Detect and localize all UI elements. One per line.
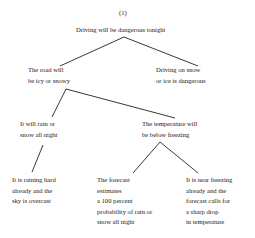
edge-rain-snow-to-raining-hard bbox=[32, 145, 43, 172]
node-line: be below freezing bbox=[142, 130, 197, 141]
node-line: It is near freezing bbox=[186, 175, 232, 186]
node-forecast: The forecast estimates a 100 percent pro… bbox=[97, 175, 152, 228]
node-line: be icy or snowy bbox=[28, 76, 70, 87]
node-line: already and the bbox=[186, 186, 232, 197]
node-line: already and the bbox=[12, 186, 56, 197]
node-line: It is raining hard bbox=[12, 175, 56, 186]
node-driving-on-snow: Driving on snow or ice is dangerous bbox=[156, 65, 206, 86]
node-road-icy: The road will be icy or snowy bbox=[28, 65, 70, 86]
edge-road-icy-to-temperature bbox=[66, 89, 175, 118]
edge-root-to-driving-on-snow bbox=[124, 37, 198, 66]
node-line: Driving will be dangerous tonight bbox=[76, 25, 165, 36]
node-line: estimates bbox=[97, 186, 152, 197]
node-line: The forecast bbox=[97, 175, 152, 186]
node-raining-hard: It is raining hard already and the sky i… bbox=[12, 175, 56, 207]
node-line: sky is overcast bbox=[12, 196, 56, 207]
node-temperature: The temperature will be below freezing bbox=[142, 119, 197, 140]
node-line: snow all night bbox=[97, 217, 152, 228]
node-root: Driving will be dangerous tonight bbox=[76, 25, 165, 36]
edge-temperature-to-near-freezing bbox=[160, 142, 198, 173]
node-rain-snow: It will rain or snow all night bbox=[20, 119, 57, 140]
node-line: It will rain or bbox=[20, 119, 57, 130]
node-line: probability of rain or bbox=[97, 207, 152, 218]
node-line: Driving on snow bbox=[156, 65, 206, 76]
diagram-label-text: (1) bbox=[119, 8, 127, 19]
edge-road-icy-to-rain-snow bbox=[52, 89, 66, 117]
node-line: or ice is dangerous bbox=[156, 76, 206, 87]
node-line: snow all night bbox=[20, 130, 57, 141]
node-near-freezing: It is near freezing already and the fore… bbox=[186, 175, 232, 228]
node-line: The temperature will bbox=[142, 119, 197, 130]
diagram-label: (1) bbox=[119, 8, 127, 19]
edge-temperature-to-forecast bbox=[133, 142, 160, 173]
node-line: a 100 percent bbox=[97, 196, 152, 207]
node-line: forecast calls for bbox=[186, 196, 232, 207]
edge-root-to-road-icy bbox=[60, 37, 124, 66]
node-line: in temperature bbox=[186, 217, 232, 228]
node-line: The road will bbox=[28, 65, 70, 76]
node-line: a sharp drop bbox=[186, 207, 232, 218]
